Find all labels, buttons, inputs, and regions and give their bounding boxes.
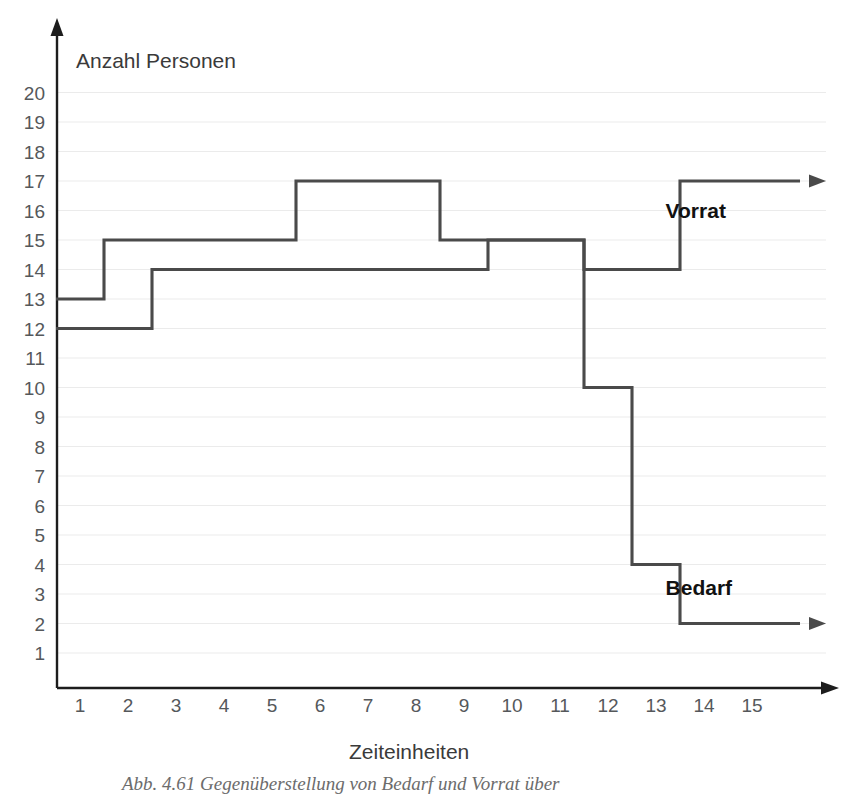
y-axis-tick-label: 9 [34,407,45,428]
series-arrowhead-vorrat [809,175,826,188]
y-axis-tick-label: 12 [24,319,45,340]
y-axis-tick-label: 20 [24,83,45,104]
y-axis-tick-label: 8 [34,437,45,458]
x-axis-tick-label: 6 [315,695,326,716]
x-axis-arrowhead [821,682,839,695]
y-axis-tick-label: 11 [25,348,45,369]
y-axis-title: Anzahl Personen [76,49,236,72]
y-axis-tick-label: 19 [24,112,45,133]
y-axis-tick-label: 7 [34,466,45,487]
y-axis-arrowhead [51,18,64,36]
y-axis-tick-label: 16 [24,201,45,222]
y-axis-tick-label: 3 [34,584,45,605]
x-axis-tick-label: 14 [693,695,715,716]
y-axis-tick-label: 10 [24,378,45,399]
x-axis-tick-label: 2 [123,695,134,716]
y-axis-tick-label: 13 [24,289,45,310]
series-line-bedarf [56,240,800,624]
x-axis-tick-label: 10 [501,695,522,716]
x-axis-tick-label: 5 [267,695,278,716]
x-axis-tick-label: 9 [459,695,470,716]
x-axis-tick-labels: 123456789101112131415 [75,695,763,716]
step-chart-vorrat-bedarf: 1234567891011121314151617181920 12345678… [0,0,861,794]
x-axis-tick-label: 11 [550,695,570,716]
y-axis-tick-label: 18 [24,142,45,163]
series-lines-group [56,175,826,631]
y-axis-tick-label: 15 [24,230,45,251]
x-axis-tick-label: 7 [363,695,374,716]
y-axis-tick-label: 6 [34,496,45,517]
x-axis-tick-label: 8 [411,695,422,716]
y-axis-tick-label: 5 [34,525,45,546]
y-axis-tick-label: 2 [34,614,45,635]
series-annotations-group: VorratBedarf [666,199,734,600]
series-label-bedarf: Bedarf [666,576,734,599]
series-arrowhead-bedarf [809,617,826,630]
y-axis-tick-label: 4 [34,555,45,576]
y-axis-tick-label: 14 [24,260,46,281]
series-label-vorrat: Vorrat [666,199,726,222]
gridlines-group [58,93,826,654]
x-axis-tick-label: 13 [645,695,666,716]
y-axis-tick-labels: 1234567891011121314151617181920 [24,83,46,665]
x-axis-title: Zeiteinheiten [349,740,469,763]
x-axis-tick-label: 3 [171,695,182,716]
y-axis-tick-label: 1 [34,643,45,664]
figure-caption: Abb. 4.61 Gegenüberstellung von Bedarf u… [120,773,560,794]
x-axis-tick-label: 4 [219,695,230,716]
x-axis-tick-label: 15 [741,695,762,716]
chart-container: 1234567891011121314151617181920 12345678… [0,0,861,794]
y-axis-tick-label: 17 [24,171,45,192]
x-axis-tick-label: 12 [597,695,618,716]
x-axis-tick-label: 1 [75,695,86,716]
